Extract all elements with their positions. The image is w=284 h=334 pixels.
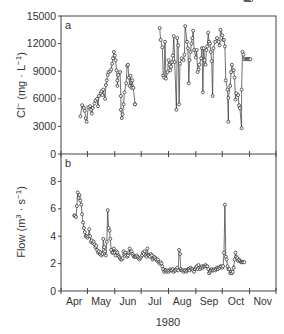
- data-point: [191, 37, 194, 40]
- data-point: [127, 63, 130, 66]
- data-point: [81, 104, 84, 107]
- panel-b-y-axis-title: Flow (m3 · s−1): [14, 186, 27, 258]
- data-point: [230, 63, 233, 66]
- data-point: [78, 194, 81, 197]
- data-point: [231, 270, 234, 273]
- data-point: [128, 247, 131, 250]
- data-point: [116, 79, 119, 82]
- data-point: [123, 91, 126, 94]
- data-point: [85, 120, 88, 123]
- data-point: [219, 28, 222, 31]
- y-tick-label: 4: [50, 230, 56, 242]
- data-point: [249, 58, 252, 61]
- data-point: [221, 34, 224, 37]
- data-point: [195, 49, 198, 52]
- month-label: Jun: [119, 295, 136, 307]
- y-tick-label: 15000: [27, 10, 56, 22]
- data-point: [218, 44, 221, 47]
- panel-a-letter: a: [65, 19, 72, 31]
- data-point: [110, 68, 113, 71]
- data-point: [179, 62, 182, 65]
- data-point: [176, 37, 179, 40]
- data-point: [131, 79, 134, 82]
- data-point: [192, 29, 195, 32]
- data-point: [234, 98, 237, 101]
- y-tick-label: 2: [50, 257, 56, 269]
- data-point: [79, 115, 82, 118]
- month-label: Apr: [66, 295, 83, 307]
- data-point: [88, 228, 91, 231]
- data-point: [75, 216, 78, 219]
- y-tick-label: 8: [50, 175, 56, 187]
- data-point: [75, 205, 78, 208]
- data-point: [227, 120, 230, 123]
- data-point: [238, 107, 241, 110]
- data-point: [186, 40, 189, 43]
- data-point: [79, 199, 82, 202]
- data-point: [104, 250, 107, 253]
- x-axis-title-year: 1980: [156, 316, 180, 328]
- data-point: [102, 88, 105, 91]
- data-point: [209, 50, 212, 53]
- data-point: [169, 69, 172, 72]
- data-point: [183, 53, 186, 56]
- data-point: [233, 76, 236, 79]
- month-label: Nov: [253, 295, 272, 307]
- data-point: [104, 254, 107, 257]
- data-point: [119, 108, 122, 111]
- data-point: [171, 54, 174, 57]
- panel-a-chloride-series: [79, 25, 252, 130]
- data-point: [117, 73, 120, 76]
- figure: a 03000600090001200015000 Cl− (mg · L−1)…: [0, 0, 284, 334]
- data-point: [108, 229, 111, 232]
- data-point: [146, 247, 149, 250]
- y-tick-label: 6000: [33, 92, 57, 104]
- y-tick-label: 0: [50, 148, 56, 160]
- data-point: [120, 117, 123, 120]
- data-point: [82, 227, 85, 230]
- data-point: [204, 63, 207, 66]
- data-point: [164, 77, 167, 80]
- data-point: [206, 45, 209, 48]
- data-point: [96, 97, 99, 100]
- data-point: [232, 266, 235, 269]
- data-point: [223, 45, 226, 48]
- data-point: [216, 37, 219, 40]
- data-point: [161, 46, 164, 49]
- data-point: [81, 213, 84, 216]
- data-point: [125, 82, 128, 85]
- data-point: [200, 57, 203, 60]
- month-label: Jul: [148, 295, 161, 307]
- data-point: [113, 54, 116, 57]
- data-point: [222, 265, 225, 268]
- data-point: [121, 257, 124, 260]
- panel-b-letter: b: [65, 157, 71, 169]
- data-point: [80, 203, 83, 206]
- data-point: [158, 27, 161, 30]
- data-point: [207, 31, 210, 34]
- data-point: [232, 69, 235, 72]
- data-point: [167, 59, 170, 62]
- data-point: [237, 94, 240, 97]
- data-point: [223, 38, 226, 41]
- data-point: [229, 84, 232, 87]
- data-point: [164, 40, 167, 43]
- data-point: [211, 95, 214, 98]
- data-point: [182, 59, 185, 62]
- data-point: [90, 112, 93, 115]
- data-point: [111, 62, 114, 65]
- panel-a-frame: [61, 16, 276, 154]
- y-tick-label: 6: [50, 202, 56, 214]
- data-point: [203, 59, 206, 62]
- data-point: [205, 49, 208, 52]
- data-point: [187, 82, 190, 85]
- y-tick-label: 12000: [27, 37, 56, 49]
- data-point: [201, 91, 204, 94]
- data-point: [234, 251, 237, 254]
- data-point: [240, 127, 243, 130]
- data-point: [198, 63, 201, 66]
- data-point: [227, 96, 230, 99]
- data-point: [122, 103, 125, 106]
- data-point: [172, 35, 175, 38]
- panel-a-y-axis-title: Cl− (mg · L−1): [14, 52, 27, 118]
